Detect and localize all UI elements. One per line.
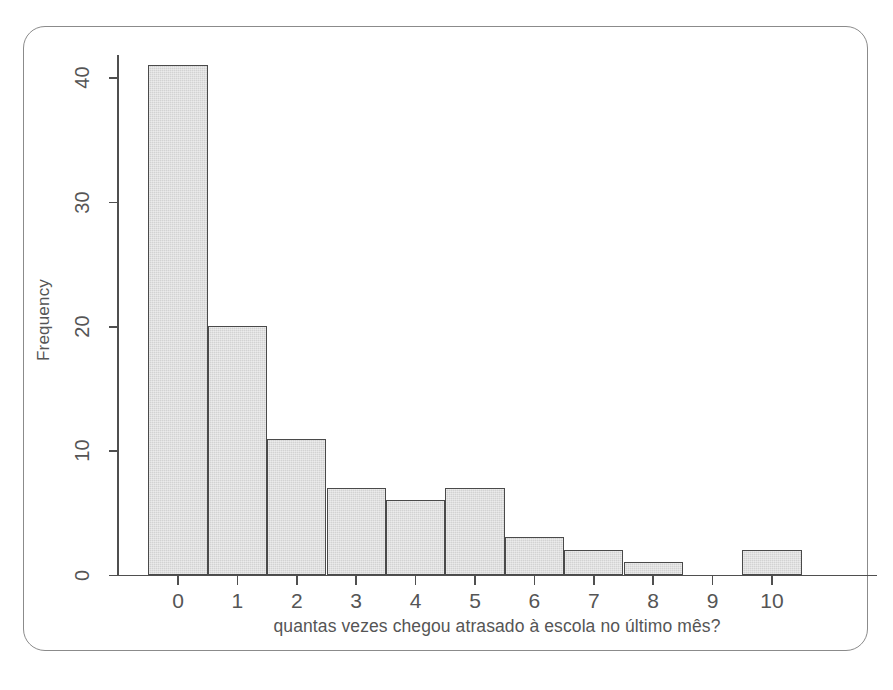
x-tick-6 [534,576,536,585]
x-tick-label-8: 8 [633,589,673,613]
x-tick-label-4: 4 [396,589,436,613]
y-tick-20 [109,326,117,328]
y-tick-label-0: 0 [62,564,102,586]
y-axis-title: Frequency [34,240,54,400]
y-tick-label-30: 30 [62,191,102,213]
bar-2 [267,439,326,575]
x-axis-title: quantas vezes chegou atrasado à escola n… [117,616,877,637]
x-tick-8 [652,576,654,585]
y-tick-label-10-text: 10 [71,431,94,471]
y-tick-label-30-text: 30 [71,183,94,223]
y-tick-label-0-text: 0 [71,556,94,596]
x-tick-9 [712,576,714,585]
bar-0 [148,65,207,575]
bar-3 [327,488,386,575]
y-axis-line [117,55,119,576]
x-tick-2 [296,576,298,585]
x-tick-label-10: 10 [752,589,792,613]
bar-4 [386,500,445,575]
x-tick-label-7: 7 [574,589,614,613]
bar-5 [445,488,504,575]
x-tick-1 [237,576,239,585]
plot-area: 0 10 20 30 40 Frequency [0,0,893,690]
x-tick-5 [474,576,476,585]
figure-canvas: 0 10 20 30 40 Frequency [0,0,893,690]
x-tick-label-0: 0 [158,589,198,613]
x-tick-label-6: 6 [514,589,554,613]
y-tick-label-40-text: 40 [71,58,94,98]
x-tick-4 [415,576,417,585]
bar-7 [564,550,623,575]
x-tick-label-5: 5 [455,589,495,613]
x-axis-line [117,575,877,577]
bar-8 [624,562,683,575]
x-tick-0 [177,576,179,585]
y-tick-label-10: 10 [62,439,102,461]
x-tick-label-9: 9 [693,589,733,613]
x-tick-10 [771,576,773,585]
y-tick-0 [109,575,117,577]
x-tick-label-1: 1 [217,589,257,613]
x-tick-label-2: 2 [277,589,317,613]
y-tick-30 [109,202,117,204]
y-tick-label-20: 20 [62,315,102,337]
y-tick-10 [109,450,117,452]
bar-10 [742,550,801,575]
x-tick-3 [355,576,357,585]
x-tick-label-3: 3 [336,589,376,613]
bar-1 [208,326,267,575]
y-tick-label-40: 40 [62,66,102,88]
bar-6 [505,537,564,575]
y-tick-40 [109,77,117,79]
x-tick-7 [593,576,595,585]
y-tick-label-20-text: 20 [71,307,94,347]
